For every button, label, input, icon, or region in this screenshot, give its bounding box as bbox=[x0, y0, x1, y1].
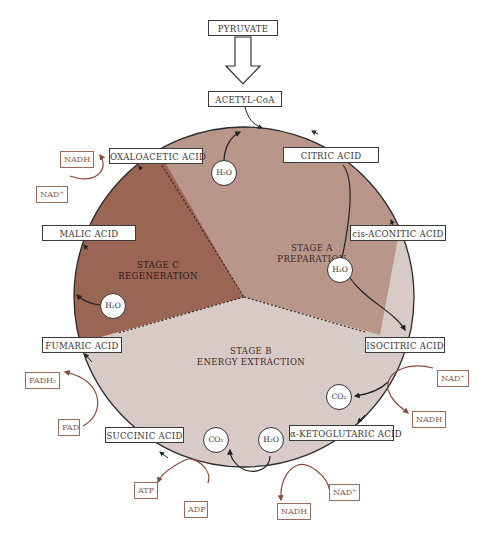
nad-bottom: NAD⁺ bbox=[329, 484, 360, 501]
ketoglutaric-acid-label: α-KETOGLUTARIC ACID bbox=[289, 425, 394, 441]
h2o-left-bubble: H₂O bbox=[100, 293, 126, 319]
oxaloacetic-acid-label: OXALOACETIC ACID bbox=[109, 148, 203, 164]
nadh-right: NADH bbox=[412, 411, 446, 428]
cycle-diagram bbox=[0, 0, 498, 550]
stage-c-subtitle: REGENERATION bbox=[118, 271, 198, 282]
atp-label: ATP bbox=[134, 482, 158, 499]
adp-label: ADP bbox=[184, 501, 208, 518]
pyruvate-arrow bbox=[226, 37, 260, 84]
stage-c-label: STAGE C REGENERATION bbox=[118, 260, 198, 282]
nadh-bottom: NADH bbox=[277, 503, 311, 520]
citric-acid-label: CITRIC ACID bbox=[283, 147, 379, 163]
nad-top-left: NAD⁺ bbox=[36, 186, 68, 203]
fad-label: FAD bbox=[58, 419, 80, 436]
stage-c-title: STAGE C bbox=[118, 260, 198, 271]
malic-acid-label: MALIC ACID bbox=[42, 225, 136, 241]
stage-b-title: STAGE B bbox=[196, 346, 306, 357]
isocitric-acid-label: ISOCITRIC ACID bbox=[365, 337, 445, 353]
nad-right: NAD⁺ bbox=[437, 370, 469, 387]
stage-b-label: STAGE B ENERGY EXTRACTION bbox=[196, 346, 306, 368]
h2o-top-bubble: H₂O bbox=[211, 160, 237, 186]
fumaric-acid-label: FUMARIC ACID bbox=[42, 337, 122, 353]
stage-b-subtitle: ENERGY EXTRACTION bbox=[196, 357, 306, 368]
succinic-acid-label: SUCCINIC ACID bbox=[105, 427, 184, 443]
co2-bottom-bubble: CO₂ bbox=[203, 427, 229, 453]
acetyl-coa-label: ACETYL-CoA bbox=[208, 91, 282, 107]
pyruvate-label: PYRUVATE bbox=[208, 20, 278, 36]
stage-a-title: STAGE A bbox=[272, 243, 352, 254]
h2o-right-bubble: H₂O bbox=[327, 257, 353, 283]
cis-aconitic-acid-label: cis-ACONITIC ACID bbox=[350, 225, 446, 241]
co2-right-bubble: CO₂ bbox=[326, 384, 352, 410]
fadh2-label: FADH₂ bbox=[25, 372, 60, 389]
h2o-bottom-bubble: H₂O bbox=[258, 427, 284, 453]
nadh-top-left: NADH bbox=[60, 151, 94, 168]
